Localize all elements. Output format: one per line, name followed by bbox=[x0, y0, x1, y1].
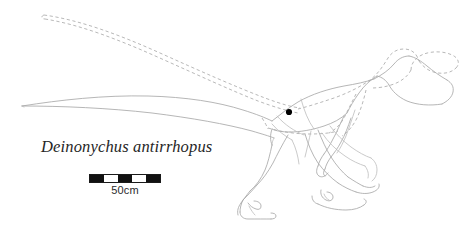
feathered-tail-lower-edge bbox=[45, 19, 298, 113]
near-thigh-back bbox=[250, 145, 272, 191]
skull-upper-jaw bbox=[409, 56, 447, 80]
far-sickle-claw bbox=[321, 190, 333, 201]
skull-lower-jaw bbox=[389, 85, 442, 105]
hand-claw-upper bbox=[317, 166, 328, 177]
feathered-lower-head-contour bbox=[371, 70, 411, 88]
shoulder-girdle-line bbox=[301, 99, 314, 129]
near-foot-toes bbox=[271, 213, 276, 219]
scale-segment-3 bbox=[118, 175, 132, 182]
dinosaur-scale-diagram: Deinonychus antirrhopus 50cm bbox=[0, 0, 473, 240]
far-foot-heel bbox=[312, 196, 318, 204]
feathered-head-upper bbox=[419, 61, 456, 73]
feathered-forelimb-envelope bbox=[329, 94, 356, 133]
far-foot-toe-tip bbox=[364, 199, 366, 205]
skeleton-illustration bbox=[0, 0, 473, 240]
scale-segment-2 bbox=[104, 175, 118, 182]
far-limb-secondary-foot-2 bbox=[365, 166, 368, 178]
far-limb-secondary-front bbox=[330, 126, 371, 158]
species-name-label: Deinonychus antirrhopus bbox=[41, 139, 212, 156]
far-foot-upper bbox=[356, 184, 379, 194]
far-foot-sole bbox=[318, 204, 364, 210]
far-shin-back bbox=[338, 183, 356, 192]
tail-base-under-join bbox=[272, 138, 274, 145]
far-shin-front bbox=[348, 177, 363, 186]
chest-contour bbox=[290, 113, 347, 132]
feathered-outline-group bbox=[42, 15, 458, 136]
neck-upper-contour bbox=[374, 56, 409, 79]
scale-bar-caption: 50cm bbox=[89, 184, 161, 196]
feathered-tail-tip bbox=[42, 15, 45, 19]
feathered-hip-contour bbox=[262, 118, 268, 129]
tail-upper-edge bbox=[22, 96, 272, 121]
feathered-snout-envelope bbox=[411, 52, 458, 70]
feathered-tail-upper-edge bbox=[44, 15, 300, 108]
forelimb-forearm-2 bbox=[325, 157, 331, 169]
far-limb-secondary-foot bbox=[371, 158, 377, 181]
femur-guide-line bbox=[292, 140, 299, 164]
neck-under-contour bbox=[347, 76, 377, 113]
scale-bar bbox=[89, 174, 161, 183]
near-foot-sole bbox=[240, 212, 271, 219]
jaw-to-neck-join bbox=[377, 76, 389, 85]
hip-joint-marker bbox=[286, 109, 292, 115]
scale-bar-group: 50cm bbox=[89, 174, 161, 196]
skull-snout-tip bbox=[442, 80, 453, 104]
scale-segment-4 bbox=[132, 175, 146, 182]
scale-segment-1 bbox=[90, 175, 104, 182]
far-ankle bbox=[363, 186, 375, 188]
scale-segment-5 bbox=[146, 175, 160, 182]
tail-lower-edge bbox=[22, 106, 274, 138]
